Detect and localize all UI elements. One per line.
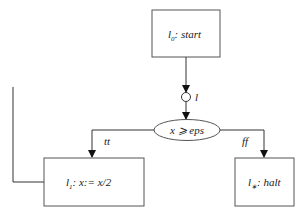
false-branch-label: ff: [242, 135, 250, 147]
divide-label-rest: : x:= x/2: [73, 176, 112, 188]
junction-label: l: [195, 91, 198, 103]
start-node: l0: start: [152, 10, 220, 57]
halt-label-rest: : halt: [257, 176, 281, 188]
start-label-rest: : start: [175, 28, 203, 40]
edge-loop-back-left: [13, 87, 44, 182]
junction-node: l: [182, 91, 199, 103]
halt-node: l∗: halt: [235, 158, 294, 206]
true-branch-label: tt: [104, 135, 111, 147]
condition-label: x ⩾ eps: [169, 124, 204, 136]
flowchart: l0: start l x ⩾ eps tt ff l1: x:= x/2 l∗…: [0, 0, 307, 216]
condition-node: x ⩾ eps: [154, 120, 220, 141]
divide-node: l1: x:= x/2: [44, 158, 144, 206]
edge-true-branch: [92, 130, 154, 157]
